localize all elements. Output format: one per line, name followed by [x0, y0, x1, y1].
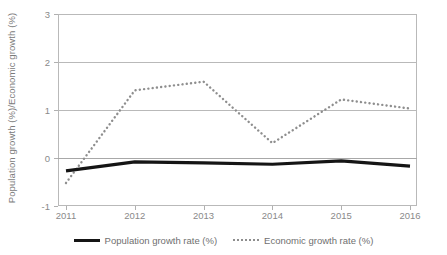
solid-line-swatch-icon	[74, 239, 100, 242]
y-axis-tick-label: 2	[45, 57, 50, 68]
y-axis-tick-mark	[54, 206, 58, 207]
dotted-line-swatch-icon	[233, 239, 259, 241]
y-axis-tick-label: 1	[45, 105, 50, 116]
legend-item-population-growth-rate: Population growth rate (%)	[74, 235, 217, 246]
chart-legend: Population growth rate (%) Economic grow…	[0, 230, 447, 250]
x-axis-tick-label: 2015	[331, 210, 352, 221]
x-axis-tick-label: 2014	[262, 210, 283, 221]
legend-label-economic-growth-rate: Economic growth rate (%)	[264, 235, 373, 246]
x-axis-tick-label-group: 201120122013201420152016	[58, 208, 417, 228]
series-plot-svg	[58, 14, 417, 206]
y-axis-tick-label-group: 3210-1	[24, 0, 54, 215]
plot-area	[58, 14, 417, 206]
x-axis-tick-label: 2016	[399, 210, 420, 221]
y-axis-tick-label: -1	[42, 201, 50, 212]
legend-label-population-growth-rate: Population growth rate (%)	[105, 235, 217, 246]
x-axis-tick-label: 2011	[56, 210, 76, 221]
population-growth-rate-line	[66, 161, 410, 171]
y-axis-tick-label: 3	[45, 9, 50, 20]
legend-item-economic-growth-rate: Economic growth rate (%)	[233, 235, 373, 246]
y-axis-tick-label: 0	[45, 153, 50, 164]
line-chart-figure: Population growth (%)/Economic growth (%…	[0, 0, 447, 255]
x-axis-tick-label: 2013	[193, 210, 214, 221]
economic-growth-rate-line	[66, 82, 410, 183]
y-axis-title: Population growth (%)/Economic growth (%…	[0, 0, 22, 215]
y-axis-title-text: Population growth (%)/Economic growth (%…	[6, 12, 17, 202]
x-axis-tick-label: 2012	[124, 210, 145, 221]
